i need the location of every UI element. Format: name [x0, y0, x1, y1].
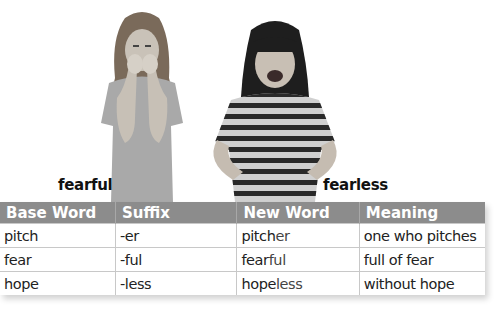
table-row: fear -ful fearful full of fear	[0, 248, 485, 272]
table-row: hope -less hopeless without hope	[0, 272, 485, 296]
header-new-word: New Word	[237, 202, 359, 224]
table-header-row: Base Word Suffix New Word Meaning	[0, 202, 485, 224]
fearless-caption: fearless	[323, 176, 388, 194]
new-word-suffix: less	[276, 276, 302, 292]
base-word-cell: hope	[0, 272, 115, 296]
suffix-cell: -er	[115, 224, 236, 248]
fearful-caption: fearful	[58, 176, 112, 194]
suffix-cell: -ful	[115, 248, 236, 272]
meaning-cell: full of fear	[359, 248, 485, 272]
new-word-base: hope	[241, 276, 276, 292]
header-meaning: Meaning	[359, 202, 485, 224]
suffix-table: Base Word Suffix New Word Meaning pitch …	[0, 202, 485, 295]
header-base-word: Base Word	[0, 202, 115, 224]
header-suffix: Suffix	[115, 202, 236, 224]
new-word-suffix: er	[275, 228, 289, 244]
new-word-cell: fearful	[237, 248, 359, 272]
suffix-cell: -less	[115, 272, 236, 296]
base-word-cell: pitch	[0, 224, 115, 248]
new-word-base: fear	[241, 252, 268, 268]
new-word-base: pitch	[241, 228, 275, 244]
base-word-cell: fear	[0, 248, 115, 272]
girl-fearless-photo	[203, 12, 348, 202]
meaning-cell: without hope	[359, 272, 485, 296]
meaning-cell: one who pitches	[359, 224, 485, 248]
table-row: pitch -er pitcher one who pitches	[0, 224, 485, 248]
new-word-cell: hopeless	[237, 272, 359, 296]
new-word-suffix: ful	[269, 252, 286, 268]
girl-fearful-photo	[95, 8, 190, 203]
new-word-cell: pitcher	[237, 224, 359, 248]
